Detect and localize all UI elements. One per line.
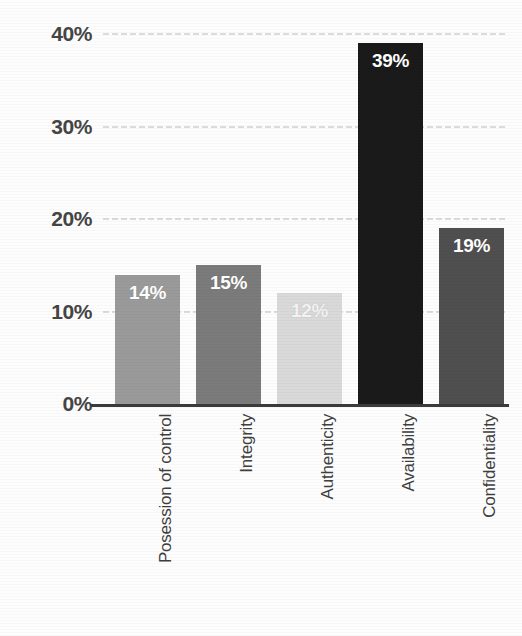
bar-value-label-2: 15%: [196, 272, 261, 294]
bar-value-label-4: 39%: [358, 50, 423, 72]
y-tick-label-10: 10%: [18, 300, 92, 324]
bar-value-label-3: 12%: [277, 300, 342, 322]
x-label-2: Integrity: [237, 414, 257, 473]
bar-1: 14%: [115, 275, 180, 405]
x-axis-line: [90, 404, 509, 407]
y-tick-label-30: 30%: [18, 115, 92, 139]
bar-3: 12%: [277, 293, 342, 404]
y-tick-label-0: 0%: [18, 392, 92, 416]
x-label-1: Posession of control: [156, 414, 176, 563]
bar-value-label-5: 19%: [439, 235, 504, 257]
y-tick-label-40: 40%: [18, 22, 92, 46]
y-tick-label-20: 20%: [18, 207, 92, 231]
x-label-3: Authenticity: [318, 414, 338, 499]
bar-2: 15%: [196, 265, 261, 404]
bar-5: 19%: [439, 228, 504, 404]
x-label-4: Availability: [399, 414, 419, 492]
bar-chart: 40%30%20%10%0% 14%15%12%39%19% Posession…: [0, 0, 522, 636]
x-label-5: Confidentiality: [480, 414, 500, 518]
bar-4: 39%: [358, 43, 423, 404]
bar-value-label-1: 14%: [115, 282, 180, 304]
plot-area: 14%15%12%39%19%: [103, 34, 508, 404]
